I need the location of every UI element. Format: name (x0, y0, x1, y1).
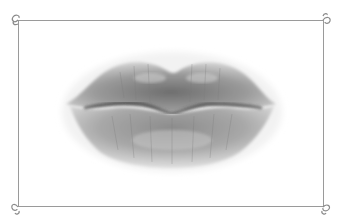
lips-drawing (0, 0, 343, 224)
